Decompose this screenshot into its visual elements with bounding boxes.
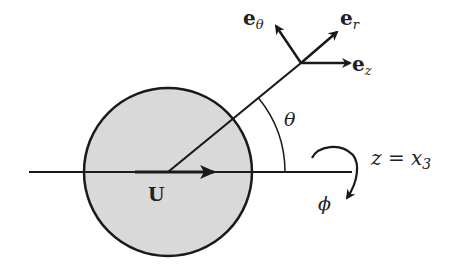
label-e-theta: eθ bbox=[243, 6, 264, 32]
diagram-canvas: U eθ er ez θ z = x3 ϕ bbox=[0, 0, 460, 274]
e-theta-arrow bbox=[276, 26, 301, 63]
label-e-z: ez bbox=[352, 52, 372, 78]
label-theta: θ bbox=[284, 108, 296, 130]
label-e-r: er bbox=[340, 6, 360, 32]
label-velocity: U bbox=[148, 183, 165, 205]
e-r-arrow bbox=[301, 32, 337, 63]
label-phi: ϕ bbox=[318, 192, 331, 214]
label-axis: z = x3 bbox=[370, 146, 431, 172]
theta-arc bbox=[259, 98, 286, 172]
